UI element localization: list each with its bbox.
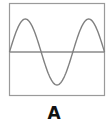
plot-frame (10, 4, 105, 96)
figure-label: A (0, 103, 108, 123)
